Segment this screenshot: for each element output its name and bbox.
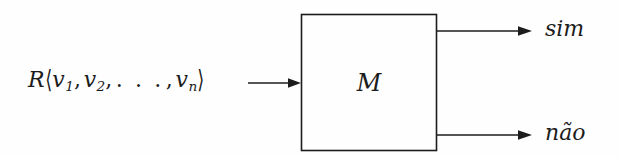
output-label-nao: não — [545, 122, 586, 144]
input-comma-3: , — [166, 67, 174, 92]
input-ellipsis: . . . — [116, 67, 164, 92]
output-arrow-nao — [436, 130, 532, 140]
input-arrow — [248, 78, 301, 88]
input-comma-1: , — [74, 67, 82, 92]
input-comma-2: , — [105, 67, 113, 92]
input-subscript-n: n — [188, 78, 197, 94]
angle-bracket-close: ⟩ — [198, 67, 205, 92]
input-subscript-2: 2 — [97, 78, 106, 94]
input-variable-1: v — [52, 67, 64, 92]
input-variable-2: v — [84, 67, 96, 92]
output-arrow-sim — [436, 26, 532, 36]
input-variable-n: v — [175, 67, 187, 92]
input-relation-symbol: R — [28, 67, 45, 92]
output-label-sim: sim — [545, 18, 584, 40]
machine-block-diagram: R⟨v1, v2,. . ., vn⟩ M sim não — [0, 0, 620, 157]
input-expression-label: R⟨v1, v2,. . ., vn⟩ — [28, 66, 205, 91]
angle-bracket-open: ⟨ — [45, 67, 52, 92]
machine-label: M — [301, 14, 437, 151]
input-subscript-1: 1 — [65, 78, 74, 94]
